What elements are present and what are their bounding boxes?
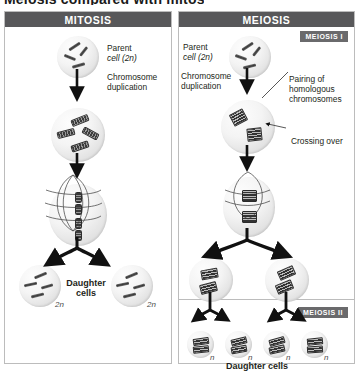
mitosis-parent-label-line1: Parent xyxy=(107,43,132,53)
chromosome xyxy=(243,63,256,69)
homologous-pair xyxy=(199,281,218,295)
chromosome xyxy=(252,46,261,56)
haploid-chromosome xyxy=(193,345,210,354)
chromosome xyxy=(123,292,136,298)
meiosis-parent-label-line2: cell (2n) xyxy=(183,52,213,62)
mitosis-parent-cell xyxy=(57,36,99,78)
metaphase-chromosome xyxy=(75,204,82,215)
homologous-pair xyxy=(200,268,218,281)
meiosis-pairing-label-line1: Pairing of xyxy=(289,74,324,84)
chromosome xyxy=(79,46,88,56)
chromosome xyxy=(34,272,47,279)
meiosis-daughter-cells-label: Daughter cells xyxy=(207,361,307,372)
mitosis-duplicated-cell xyxy=(51,108,105,162)
homologous-pair xyxy=(277,265,297,281)
figure-title: Meiosis compared with mitosis xyxy=(4,0,204,5)
chromosome xyxy=(235,54,247,60)
metaphase-chromosome xyxy=(75,218,82,229)
mitosis-parent-label-line2: cell (2n) xyxy=(107,53,137,63)
meiosis-haploid-label-4: n xyxy=(324,353,328,362)
meiosis-parent-cell xyxy=(229,36,271,78)
mitosis-daughter-label-line1: Daughter xyxy=(57,278,115,289)
meiosis-pairing-cell xyxy=(221,100,275,154)
meiosis-one-badge: MEIOSIS I xyxy=(300,31,348,42)
meiosis-two-badge: MEIOSIS II xyxy=(298,307,348,318)
metaphase-chromosome xyxy=(75,192,82,203)
mitosis-header: MITOSIS xyxy=(5,12,171,27)
chromosome xyxy=(31,292,44,298)
chromosome xyxy=(68,42,80,51)
chromosome xyxy=(125,272,138,279)
meiosis-duplication-line1: Chromosome xyxy=(181,71,231,81)
meiosis-intermediate-cell-left xyxy=(189,258,233,302)
metaphase-chromosome xyxy=(75,230,82,241)
meiosis-pairing-label-line3: chromosomes xyxy=(289,94,342,104)
meiosis-parent-label-line1: Parent xyxy=(183,42,208,52)
mitosis-metaphase-cell xyxy=(49,184,107,246)
meiosis-one-metaphase-cell xyxy=(223,177,275,237)
meiosis-pairing-label-line2: homologous xyxy=(289,84,335,94)
metaphase-pair xyxy=(242,190,257,202)
meiosis-header: MEIOSIS xyxy=(179,12,354,27)
homologous-pair xyxy=(229,108,248,127)
metaphase-pair xyxy=(242,211,257,223)
chromosome xyxy=(64,54,76,61)
chromosome xyxy=(24,282,37,287)
haploid-chromosome xyxy=(307,345,323,353)
mitosis-panel: MITOSIS Parent cell (2n) Chromosome dupl… xyxy=(4,11,172,364)
chromosome xyxy=(116,282,129,287)
meiosis-intermediate-cell-right xyxy=(265,258,309,302)
meiosis-panel: MEIOSIS MEIOSIS I MEIOSIS II Parent cell… xyxy=(178,11,355,364)
chromosome xyxy=(72,62,85,68)
duplicated-chromosome xyxy=(70,140,89,152)
duplicated-chromosome xyxy=(70,114,89,127)
duplicated-chromosome xyxy=(56,128,75,139)
mitosis-ploidy-left: 2n xyxy=(55,300,64,309)
mitosis-daughter-label-line2: cells xyxy=(57,288,115,299)
crossing-over-pair xyxy=(246,127,262,141)
mitosis-duplication-line2: duplication xyxy=(107,82,147,92)
meiosis-duplication-line2: duplication xyxy=(181,81,221,91)
mitosis-duplication-line1: Chromosome xyxy=(107,72,157,82)
haploid-chromosome xyxy=(231,345,248,355)
mitosis-ploidy-right: 2n xyxy=(147,300,156,309)
chromosome xyxy=(133,283,145,289)
chromosome xyxy=(241,42,253,51)
duplicated-chromosome xyxy=(81,126,99,140)
meiosis-crossing-over-label: Crossing over xyxy=(291,136,343,146)
homologous-pair xyxy=(275,279,295,295)
chromosome xyxy=(41,283,53,289)
